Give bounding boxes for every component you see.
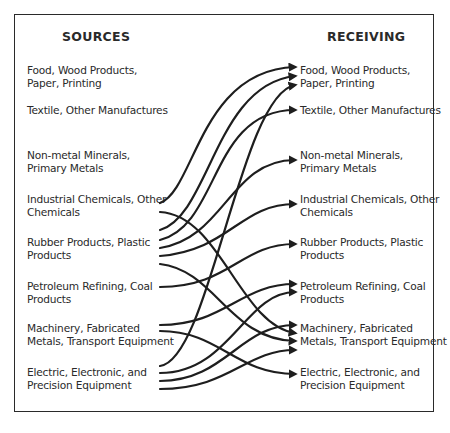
flow-arrow xyxy=(160,244,295,287)
flow-arrow xyxy=(160,284,295,325)
flow-arrows xyxy=(0,0,450,433)
flow-arrow xyxy=(160,160,295,248)
flow-arrow xyxy=(160,67,295,203)
flow-arrow xyxy=(160,264,295,341)
